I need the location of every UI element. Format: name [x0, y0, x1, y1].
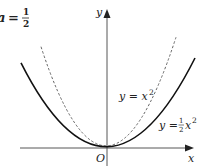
svg-text:2: 2	[179, 126, 183, 134]
label-half-x-squared: y = 1 2 x 2	[158, 116, 197, 134]
label-x-squared: y = x 2	[118, 88, 154, 103]
svg-text:=: =	[8, 10, 19, 25]
svg-text:a: a	[0, 10, 5, 25]
curve-y-equals-half-x-squared	[21, 58, 195, 147]
svg-text:y =: y =	[158, 119, 178, 132]
svg-text:2: 2	[149, 88, 154, 97]
x-axis-arrow-icon	[185, 145, 194, 152]
parameter-label: a = 1 2	[0, 7, 29, 29]
svg-text:O: O	[96, 152, 105, 165]
curve-y-equals-x-squared	[41, 37, 176, 146]
svg-text:1: 1	[179, 117, 183, 125]
parabola-diagram: a = 1 2 y x O y = x 2 y = 1 2 x 2	[0, 0, 206, 167]
svg-text:y = x: y = x	[118, 90, 148, 103]
svg-text:x: x	[185, 119, 192, 132]
svg-text:1: 1	[23, 7, 29, 17]
axes: y x O	[20, 6, 195, 166]
svg-text:2: 2	[192, 116, 197, 125]
svg-text:y: y	[95, 6, 103, 19]
y-axis-arrow-icon	[104, 9, 111, 18]
svg-text:2: 2	[23, 19, 29, 29]
svg-text:x: x	[188, 152, 195, 165]
